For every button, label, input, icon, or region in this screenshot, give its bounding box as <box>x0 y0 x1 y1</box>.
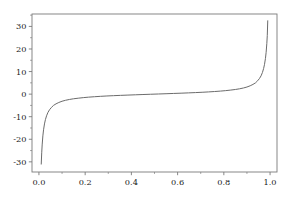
line-chart: -30-20-100102030 0.00.20.40.60.81.0 <box>0 0 291 206</box>
chart-figure: -30-20-100102030 0.00.20.40.60.81.0 <box>0 0 291 206</box>
plot-background <box>32 14 277 172</box>
x-tick-label: 0.2 <box>79 177 92 187</box>
x-tick-label: 0.6 <box>171 177 184 187</box>
y-tick-label: -30 <box>13 157 26 167</box>
y-axis-tick-labels: -30-20-100102030 <box>13 21 26 166</box>
x-tick-label: 0.8 <box>217 177 230 187</box>
y-tick-label: 0 <box>21 89 26 99</box>
y-tick-label: -10 <box>13 112 26 122</box>
x-tick-label: 1.0 <box>264 177 277 187</box>
x-axis-tick-labels: 0.00.20.40.60.81.0 <box>32 177 276 187</box>
y-tick-label: 30 <box>16 21 26 31</box>
y-tick-label: 10 <box>16 67 26 77</box>
x-tick-label: 0.0 <box>32 177 45 187</box>
y-tick-label: 20 <box>16 44 26 54</box>
x-tick-label: 0.4 <box>125 177 138 187</box>
y-tick-label: -20 <box>13 134 26 144</box>
